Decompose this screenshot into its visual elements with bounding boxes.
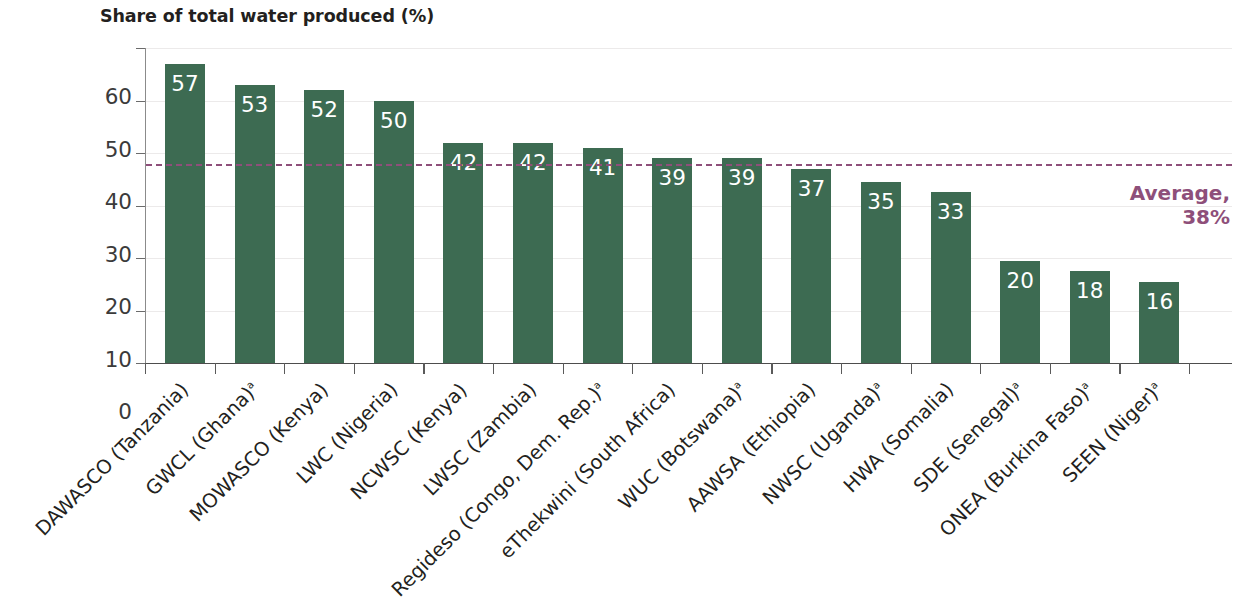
y-axis-tick-0	[136, 363, 145, 364]
x-axis-tick-4	[423, 363, 424, 374]
average-reference-line	[146, 164, 1232, 166]
x-axis-category-label: AAWSA (Ethiopia)	[682, 378, 820, 516]
y-axis-tick-label-10: 10	[105, 346, 132, 371]
bar[interactable]	[1070, 271, 1110, 363]
x-axis-tick-9	[771, 363, 772, 374]
bar[interactable]	[791, 169, 831, 363]
x-axis-tick-8	[702, 363, 703, 374]
chart-title: Share of total water produced (%)	[100, 6, 434, 26]
y-axis-tick-40	[136, 153, 145, 154]
y-axis-tick-20	[136, 258, 145, 259]
bar[interactable]	[1139, 282, 1179, 363]
bar[interactable]	[861, 182, 901, 363]
y-axis-tick-label-30: 30	[105, 241, 132, 266]
x-axis-category-label: NCWSC (Kenya)	[346, 378, 472, 504]
x-axis-tick-11	[911, 363, 912, 374]
x-axis-tick-7	[632, 363, 633, 374]
bar[interactable]	[443, 143, 483, 364]
bar[interactable]	[374, 101, 414, 364]
bar[interactable]	[235, 85, 275, 363]
x-axis-tick-15	[1189, 363, 1190, 374]
bar[interactable]	[652, 158, 692, 363]
footnote-marker: a	[243, 379, 255, 391]
x-axis-tick-10	[841, 363, 842, 374]
x-axis-category-label: WUC (Botswana)a	[614, 378, 751, 515]
x-axis-line	[136, 363, 1232, 364]
plot-area: 575352504242413939373533201816 Average,3…	[145, 48, 1232, 363]
x-axis-tick-3	[354, 363, 355, 374]
y-axis-tick-label-40: 40	[105, 189, 132, 214]
x-axis-category-label: NWSC (Uganda)a	[758, 378, 889, 509]
x-axis-tick-14	[1119, 363, 1120, 374]
gridline-60	[145, 48, 1232, 49]
bar[interactable]	[165, 64, 205, 363]
bar[interactable]	[722, 158, 762, 363]
y-axis-tick-30	[136, 206, 145, 207]
average-annotation-line1: Average,	[1025, 181, 1230, 205]
x-axis-tick-1	[215, 363, 216, 374]
footnote-marker: a	[1009, 379, 1021, 391]
footnote-marker: a	[1078, 379, 1090, 391]
bar[interactable]	[513, 143, 553, 364]
footnote-marker: a	[591, 379, 603, 391]
y-axis-line	[145, 48, 146, 363]
y-axis-tick-labels: 0102030405060	[0, 48, 132, 363]
y-axis-tick-label-60: 60	[105, 84, 132, 109]
average-annotation-line2: 38%	[1025, 205, 1230, 229]
bar[interactable]	[931, 192, 971, 363]
bar-chart: Share of total water produced (%) 010203…	[0, 0, 1236, 615]
x-axis-tick-13	[1050, 363, 1051, 374]
y-axis-tick-label-20: 20	[105, 294, 132, 319]
x-axis-tick-6	[563, 363, 564, 374]
footnote-marker: a	[1148, 379, 1160, 391]
x-axis-tick-0	[145, 363, 146, 374]
footnote-marker: a	[731, 379, 743, 391]
y-axis-tick-60	[136, 48, 145, 49]
y-axis-tick-10	[136, 311, 145, 312]
x-axis-tick-12	[980, 363, 981, 374]
y-axis-tick-label-50: 50	[105, 136, 132, 161]
bar[interactable]	[583, 148, 623, 363]
footnote-marker: a	[870, 379, 882, 391]
y-axis-tick-50	[136, 101, 145, 102]
y-axis-tick-label-0: 0	[118, 399, 132, 424]
bar[interactable]	[1000, 261, 1040, 363]
average-annotation-label: Average,38%	[1025, 181, 1230, 230]
bar[interactable]	[304, 90, 344, 363]
x-axis-tick-2	[284, 363, 285, 374]
x-axis-tick-5	[493, 363, 494, 374]
